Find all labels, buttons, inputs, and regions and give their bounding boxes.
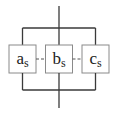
label-b-sub: s [61,56,66,70]
label-a-base: a [16,49,24,68]
label-c: cs [82,50,109,69]
label-c-base: c [89,49,97,68]
label-b: bs [46,50,73,69]
label-a: as [9,50,36,69]
label-a-sub: s [24,56,29,70]
label-b-base: b [52,49,61,68]
label-c-sub: s [97,56,102,70]
